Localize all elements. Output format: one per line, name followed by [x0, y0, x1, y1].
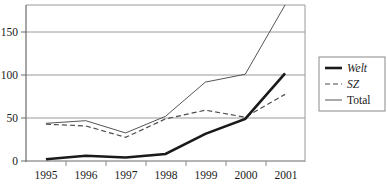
x-tick-label-1999: 1999: [195, 169, 218, 181]
legend-label-sz: SZ: [347, 78, 360, 90]
x-tick-label-1998: 1998: [155, 169, 178, 181]
legend-label-welt: Welt: [347, 62, 368, 74]
legend-label-total: Total: [347, 94, 370, 106]
x-tick-label-2001: 2001: [275, 169, 298, 181]
x-tick-label-1995: 1995: [35, 169, 58, 181]
line-chart: 150 100 50 0 1995 1996 1997 1998 1999 20…: [0, 0, 387, 185]
y-tick-label-150: 150: [1, 26, 19, 38]
legend: Welt SZ Total: [319, 57, 385, 111]
y-axis-ticks: [21, 32, 26, 161]
y-tick-label-50: 50: [7, 112, 19, 124]
x-tick-label-2000: 2000: [235, 169, 258, 181]
chart-canvas: 150 100 50 0 1995 1996 1997 1998 1999 20…: [0, 0, 387, 185]
y-tick-label-100: 100: [1, 69, 19, 81]
x-tick-label-1997: 1997: [115, 169, 138, 181]
y-tick-label-0: 0: [12, 155, 18, 167]
plot-area-background: [26, 5, 305, 162]
x-tick-label-1996: 1996: [75, 169, 98, 181]
